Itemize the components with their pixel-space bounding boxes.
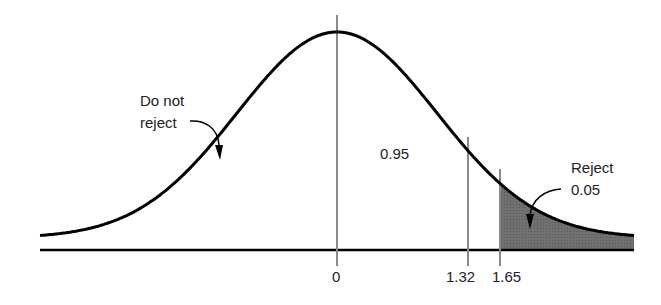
do-not-reject-label: Do not reject [140, 92, 184, 132]
do-not-reject-arrowhead [215, 145, 223, 160]
tick-label-0: 0 [332, 268, 340, 286]
tick-label-1-32: 1.32 [446, 268, 475, 286]
reject-label: Reject 0.05 [571, 159, 614, 199]
normal-curve-diagram [0, 0, 661, 305]
tick-label-1-65: 1.65 [492, 268, 521, 286]
rejection-region [500, 183, 634, 250]
area-095-label: 0.95 [380, 145, 409, 163]
